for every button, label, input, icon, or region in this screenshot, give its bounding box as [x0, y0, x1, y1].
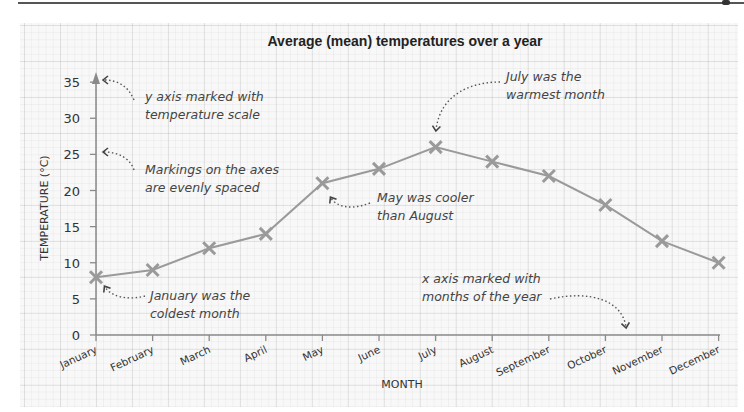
x-tick-label: May: [300, 343, 325, 363]
annotation-text: than August: [377, 208, 454, 223]
y-tick-label: 10: [63, 256, 80, 271]
x-tick-label: June: [355, 343, 382, 364]
dotted-arrow-icon: [436, 82, 500, 130]
annotation-text: are evenly spaced: [145, 180, 260, 195]
annotation-text: May was cooler: [377, 190, 475, 205]
annotation-y-axis: y axis marked with temperature scale: [104, 80, 264, 122]
x-tick-label: August: [457, 343, 495, 369]
y-axis: 05101520253035: [63, 72, 100, 343]
annotation-text: January was the: [147, 288, 251, 303]
data-point-x-marker-icon: [486, 156, 498, 168]
data-point-x-marker-icon: [430, 141, 442, 153]
x-axis: JanuaryFebruaryMarchAprilMayJuneJulyAugu…: [57, 335, 722, 378]
data-point-x-marker-icon: [543, 170, 555, 182]
y-tick-label: 20: [63, 184, 80, 199]
annotation-text: months of the year: [422, 289, 542, 304]
chart-title: Average (mean) temperatures over a year: [268, 33, 544, 49]
x-axis-title: MONTH: [381, 378, 422, 391]
x-tick-label: July: [415, 343, 438, 362]
dotted-arrow-icon: [104, 152, 134, 170]
annotation-text: Markings on the axes: [145, 162, 279, 177]
x-tick-label: February: [108, 343, 155, 374]
data-point-x-marker-icon: [316, 177, 328, 189]
y-tick-label: 5: [72, 292, 80, 307]
annotation-text: July was the: [503, 69, 582, 84]
x-tick-label: January: [57, 343, 99, 371]
data-point-x-marker-icon: [713, 257, 725, 269]
x-tick-label: November: [610, 343, 665, 377]
annotation-axes-spacing: Markings on the axes are evenly spaced: [104, 152, 279, 195]
dotted-arrow-icon: [331, 198, 370, 207]
data-point-x-marker-icon: [656, 235, 668, 247]
y-tick-label: 15: [63, 220, 80, 235]
y-axis-title: TEMPERATURE (°C): [38, 155, 51, 261]
annotation-may: May was cooler than August: [331, 190, 475, 223]
annotation-july: July was the warmest month: [436, 69, 605, 130]
y-tick-label: 0: [72, 328, 80, 343]
y-tick-label: 30: [63, 111, 80, 126]
x-tick-label: December: [667, 343, 722, 377]
y-tick-label: 25: [63, 147, 80, 162]
data-point-x-marker-icon: [373, 163, 385, 175]
dotted-arrow-icon: [550, 296, 626, 327]
annotation-text: temperature scale: [145, 107, 260, 122]
x-tick-label: September: [494, 343, 552, 379]
annotation-x-axis: x axis marked with months of the year: [421, 271, 626, 327]
annotation-january: January was the coldest month: [105, 287, 251, 321]
annotation-text: x axis marked with: [421, 271, 541, 286]
y-tick-label: 35: [63, 75, 80, 90]
line-chart: Average (mean) temperatures over a year …: [0, 0, 744, 412]
data-point-x-marker-icon: [599, 199, 611, 211]
data-point-x-marker-icon: [203, 242, 215, 254]
dotted-arrow-icon: [105, 287, 145, 298]
x-tick-label: April: [242, 343, 269, 364]
annotation-text: coldest month: [150, 306, 240, 321]
x-tick-label: October: [565, 343, 609, 372]
annotation-text: y axis marked with: [144, 89, 264, 104]
annotation-text: warmest month: [506, 87, 605, 102]
x-tick-label: March: [178, 343, 212, 367]
data-point-x-marker-icon: [260, 228, 272, 240]
dotted-arrow-icon: [104, 80, 134, 100]
